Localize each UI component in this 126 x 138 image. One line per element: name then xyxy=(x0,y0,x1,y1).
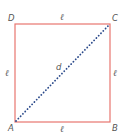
side-label-left: ℓ xyxy=(5,68,9,78)
vertex-label-c: C xyxy=(112,13,118,23)
diagonal-label-d: d xyxy=(56,62,62,72)
side-label-bottom: ℓ xyxy=(60,124,64,134)
square-diagonal-diagram: D C A B ℓ ℓ ℓ ℓ d xyxy=(0,0,126,138)
vertex-label-b: B xyxy=(112,123,118,133)
side-label-top: ℓ xyxy=(60,12,64,22)
vertex-label-a: A xyxy=(7,123,14,133)
vertex-label-d: D xyxy=(8,13,15,23)
diagonal-ac xyxy=(16,25,109,121)
side-label-right: ℓ xyxy=(113,68,117,78)
